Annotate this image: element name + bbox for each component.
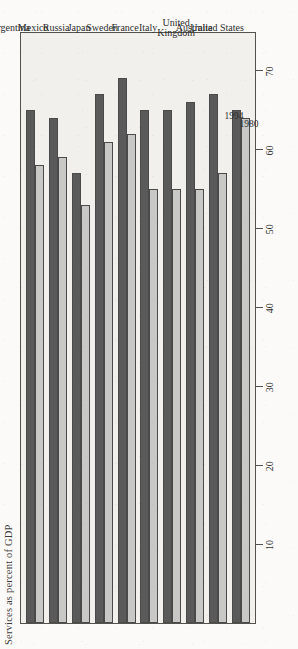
- bar-1980: [149, 189, 158, 623]
- bar-1980: [35, 165, 44, 623]
- bar-1994: [140, 110, 149, 623]
- axis-tick: [256, 386, 263, 387]
- bar-1994: [209, 94, 218, 623]
- bar-1994: [186, 102, 195, 623]
- axis-tick-label: 40: [264, 303, 275, 313]
- bar-1980: [104, 142, 113, 623]
- bar-row: [163, 33, 181, 623]
- bar-rows: [21, 33, 255, 623]
- bar-1980: [172, 189, 181, 623]
- bar-row: [26, 33, 44, 623]
- axis-tick: [256, 149, 263, 150]
- axis-tick-label: 30: [264, 382, 275, 392]
- value-axis: 70605040302010: [256, 32, 296, 624]
- axis-tick: [256, 228, 263, 229]
- axis-tick-label: 10: [264, 540, 275, 550]
- bar-row: [186, 33, 204, 623]
- bar-row: [118, 33, 136, 623]
- plot-area: [20, 32, 256, 624]
- bar-1994: [26, 110, 35, 623]
- series-annotation-1980: 1980: [239, 118, 258, 128]
- bar-row: [49, 33, 67, 623]
- bar-1980: [81, 205, 90, 623]
- axis-tick-label: 70: [264, 66, 275, 76]
- bar-chart-figure: Services as percent of GDP 7060504030201…: [0, 0, 298, 649]
- category-axis: ArgentinaMexicoRussiaJapanSwedenFranceIt…: [0, 32, 20, 624]
- bar-1980: [127, 134, 136, 623]
- bar-row: [72, 33, 90, 623]
- bar-1994: [118, 78, 127, 623]
- axis-tick: [256, 307, 263, 308]
- axis-tick: [256, 544, 263, 545]
- axis-tick-label: 50: [264, 224, 275, 234]
- scanned-figure-page: Services as percent of GDP 7060504030201…: [0, 0, 298, 649]
- axis-tick: [256, 465, 263, 466]
- bar-1980: [195, 189, 204, 623]
- bar-1980: [218, 173, 227, 623]
- bar-1994: [232, 110, 241, 623]
- bar-row: [140, 33, 158, 623]
- bar-1994: [163, 110, 172, 623]
- axis-tick-label: 20: [264, 461, 275, 471]
- axis-tick: [256, 70, 263, 71]
- bar-1994: [95, 94, 104, 623]
- axis-tick-label: 60: [264, 145, 275, 155]
- bar-1994: [49, 118, 58, 623]
- rotated-figure-container: Services as percent of GDP 7060504030201…: [0, 0, 298, 649]
- category-label: United States: [187, 23, 247, 33]
- bar-1994: [72, 173, 81, 623]
- bar-row: [95, 33, 113, 623]
- bar-1980: [241, 118, 250, 623]
- bar-row: [209, 33, 227, 623]
- bar-1980: [58, 157, 67, 623]
